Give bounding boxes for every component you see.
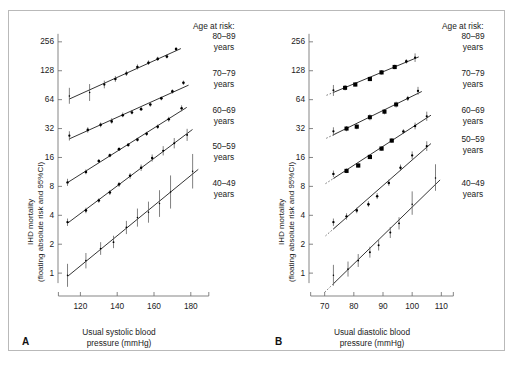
y-tick-label-a-32: 32 (28, 123, 54, 133)
panel-b: IHD mortality (floating absolute risk an… (257, 0, 515, 367)
legend-age-unit: years (445, 116, 501, 127)
x-axis-title-line2-a: pressure (mmHg) (87, 338, 152, 348)
x-tick-label-a-120: 120 (65, 301, 95, 311)
y-tick-label-b-32: 32 (279, 123, 305, 133)
legend-item-a-6069: 60–69years (196, 105, 252, 126)
legend-item-a-4049: 40–49years (196, 178, 252, 199)
x-tick-label-a-160: 160 (139, 301, 169, 311)
legend-age-unit: years (445, 79, 501, 90)
x-axis-title-line1-b: Usual diastolic blood (334, 327, 410, 337)
panel-letter-b: B (275, 336, 282, 347)
legend-age-unit: years (196, 79, 252, 90)
legend-age-range: 40–49 (196, 178, 252, 189)
x-axis-title-line1-a: Usual systolic blood (82, 327, 155, 337)
legend-item-b-6069: 60–69years (445, 105, 501, 126)
legend-age-unit: years (196, 152, 252, 163)
y-tick-label-a-64: 64 (28, 94, 54, 104)
legend-age-unit: years (445, 42, 501, 53)
legend-title-a: Age at risk: (193, 21, 235, 31)
y-tick-label-a-2: 2 (28, 239, 54, 249)
legend-age-range: 80–89 (445, 31, 501, 42)
x-tick-label-a-140: 140 (102, 301, 132, 311)
x-tick-label-b-90: 90 (368, 301, 398, 311)
y-tick-label-b-16: 16 (279, 152, 305, 162)
legend-age-range: 60–69 (196, 105, 252, 116)
legend-age-range: 50–59 (445, 134, 501, 145)
y-tick-label-a-8: 8 (28, 181, 54, 191)
y-tick-label-a-128: 128 (28, 65, 54, 75)
y-tick-label-b-64: 64 (279, 94, 305, 104)
panel-letter-a: A (22, 336, 29, 347)
x-tick-label-b-100: 100 (397, 301, 427, 311)
legend-item-b-8089: 80–89years (445, 31, 501, 52)
legend-item-b-4049: 40–49years (445, 178, 501, 199)
legend-item-b-7079: 70–79years (445, 68, 501, 89)
y-tick-label-a-1: 1 (28, 268, 54, 278)
y-tick-label-b-4: 4 (279, 210, 305, 220)
x-axis-title-b: Usual diastolic blood pressure (mmHg) (297, 327, 447, 349)
legend-item-b-5059: 50–59years (445, 134, 501, 155)
y-tick-label-b-256: 256 (279, 36, 305, 46)
figure-container: IHD mortality (floating absolute risk an… (0, 0, 515, 367)
legend-age-range: 70–79 (445, 68, 501, 79)
y-tick-label-a-4: 4 (28, 210, 54, 220)
legend-age-unit: years (196, 116, 252, 127)
legend-age-unit: years (445, 145, 501, 156)
x-tick-label-b-80: 80 (339, 301, 369, 311)
legend-age-unit: years (445, 189, 501, 200)
legend-item-a-7079: 70–79years (196, 68, 252, 89)
x-tick-label-b-70: 70 (310, 301, 340, 311)
y-tick-label-b-8: 8 (279, 181, 305, 191)
panel-a: IHD mortality (floating absolute risk an… (0, 0, 258, 367)
legend-age-range: 40–49 (445, 178, 501, 189)
legend-item-a-5059: 50–59years (196, 141, 252, 162)
y-tick-label-b-128: 128 (279, 65, 305, 75)
x-tick-label-b-110: 110 (426, 301, 456, 311)
legend-age-range: 70–79 (196, 68, 252, 79)
legend-age-range: 60–69 (445, 105, 501, 116)
x-tick-label-a-180: 180 (176, 301, 206, 311)
x-axis-title-line2-b: pressure (mmHg) (340, 338, 405, 348)
legend-age-unit: years (196, 189, 252, 200)
legend-title-b: Age at risk: (442, 21, 484, 31)
legend-age-range: 50–59 (196, 141, 252, 152)
y-tick-label-a-16: 16 (28, 152, 54, 162)
legend-age-range: 80–89 (196, 31, 252, 42)
y-tick-label-b-2: 2 (279, 239, 305, 249)
x-axis-title-a: Usual systolic blood pressure (mmHg) (44, 327, 194, 349)
legend-item-a-8089: 80–89years (196, 31, 252, 52)
y-tick-label-a-256: 256 (28, 36, 54, 46)
y-tick-label-b-1: 1 (279, 268, 305, 278)
legend-age-unit: years (196, 42, 252, 53)
